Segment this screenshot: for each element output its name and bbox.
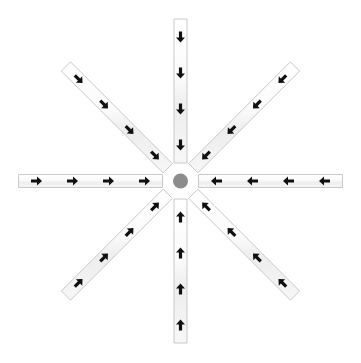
arm-s	[174, 199, 187, 343]
diagram-canvas	[0, 0, 361, 363]
center-hub	[173, 174, 188, 189]
arm-ne	[189, 62, 300, 173]
radial-flow-diagram	[0, 0, 361, 363]
arm-sw	[61, 189, 172, 300]
arm-e	[199, 175, 343, 188]
arm-nw	[61, 62, 172, 173]
arm-w	[19, 175, 163, 188]
hub-layer	[170, 170, 192, 192]
arm-n	[174, 19, 187, 163]
arm-se	[189, 189, 300, 300]
